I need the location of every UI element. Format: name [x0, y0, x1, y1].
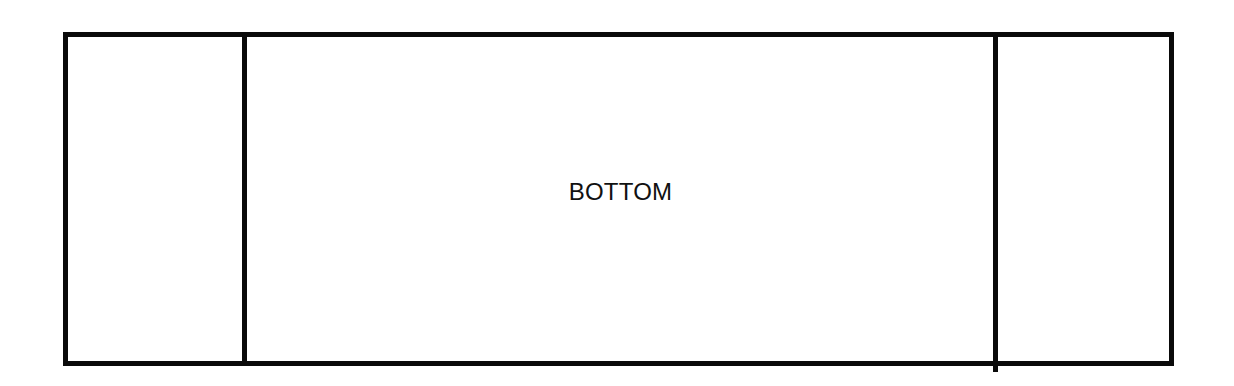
center-section-label: BOTTOM [248, 178, 993, 206]
right-section [998, 37, 1169, 361]
left-divider-line [242, 34, 247, 362]
left-section [68, 37, 242, 361]
right-divider-line [993, 36, 998, 372]
